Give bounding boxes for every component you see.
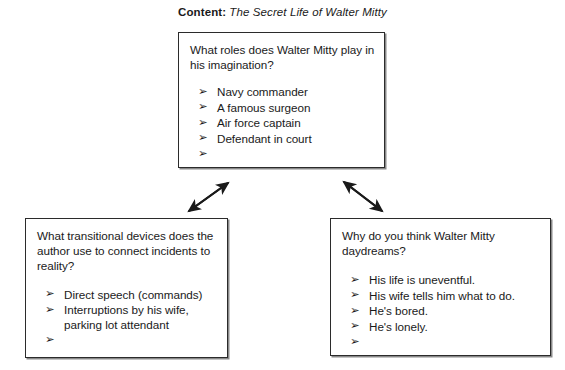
list-item-label: Direct speech (commands) bbox=[64, 288, 202, 301]
content-label: Content: bbox=[178, 6, 226, 18]
list-item: ➢ Direct speech (commands) bbox=[45, 287, 218, 302]
content-title: The Secret Life of Walter Mitty bbox=[229, 6, 387, 18]
answer-list-bottom-right: ➢ His life is uneventful. ➢ His wife tel… bbox=[342, 272, 541, 349]
list-item: ➢ Navy commander bbox=[198, 84, 375, 99]
question-text-top: What roles does Walter Mitty play in his… bbox=[190, 42, 375, 72]
list-item-blank[interactable]: ➢ bbox=[350, 334, 541, 349]
list-item-label: Interruptions by his wife, bbox=[64, 303, 189, 316]
arrowhead-bullet-icon: ➢ bbox=[198, 84, 208, 99]
arrowhead-bullet-icon: ➢ bbox=[198, 115, 208, 130]
connector-arrow-right bbox=[336, 172, 396, 220]
list-item-label: His wife tells him what to do. bbox=[369, 289, 515, 302]
arrowhead-bullet-icon: ➢ bbox=[350, 272, 360, 287]
arrowhead-bullet-icon: ➢ bbox=[45, 286, 55, 301]
arrowhead-bullet-icon: ➢ bbox=[350, 287, 360, 302]
list-item-continuation: parking lot attendant bbox=[64, 317, 218, 332]
list-item-label: He's bored. bbox=[369, 304, 428, 317]
page-title: Content: The Secret Life of Walter Mitty bbox=[0, 5, 565, 19]
question-box-bottom-right: Why do you think Walter Mitty daydreams?… bbox=[330, 218, 551, 356]
list-item-label: He's lonely. bbox=[369, 320, 428, 333]
arrow-shaft bbox=[189, 183, 228, 211]
list-item: ➢ Defendant in court bbox=[198, 131, 375, 146]
list-item-blank[interactable]: ➢ bbox=[198, 146, 375, 161]
question-box-bottom-right-inner: Why do you think Walter Mitty daydreams?… bbox=[331, 219, 550, 349]
question-box-bottom-left: What transitional devices does the autho… bbox=[25, 218, 228, 358]
arrow-shaft bbox=[344, 182, 382, 211]
question-box-bottom-left-inner: What transitional devices does the autho… bbox=[26, 219, 227, 348]
list-item: ➢ Interruptions by his wife, parking lot… bbox=[45, 302, 218, 333]
arrowhead-bullet-icon: ➢ bbox=[45, 302, 55, 317]
arrowhead-bullet-icon: ➢ bbox=[350, 318, 360, 333]
question-text-bottom-right: Why do you think Walter Mitty daydreams? bbox=[342, 228, 541, 258]
list-item: ➢ He's bored. bbox=[350, 303, 541, 318]
list-item-label: Defendant in court bbox=[217, 132, 312, 145]
arrowhead-bullet-icon: ➢ bbox=[45, 332, 55, 347]
arrowhead-bullet-icon: ➢ bbox=[198, 146, 208, 161]
graphic-organizer-page: Content: The Secret Life of Walter Mitty… bbox=[0, 0, 565, 370]
list-item-label: A famous surgeon bbox=[217, 101, 310, 114]
list-item: ➢ He's lonely. bbox=[350, 319, 541, 334]
list-item-blank[interactable]: ➢ bbox=[45, 333, 218, 348]
question-text-bottom-left: What transitional devices does the autho… bbox=[37, 228, 218, 274]
list-item: ➢ His wife tells him what to do. bbox=[350, 288, 541, 303]
arrowhead-bullet-icon: ➢ bbox=[350, 303, 360, 318]
list-item-label: Air force captain bbox=[217, 116, 301, 129]
list-item-label: Navy commander bbox=[217, 85, 308, 98]
list-item: ➢ Air force captain bbox=[198, 115, 375, 130]
question-box-top-inner: What roles does Walter Mitty play in his… bbox=[179, 33, 384, 161]
answer-list-bottom-left: ➢ Direct speech (commands) ➢ Interruptio… bbox=[37, 287, 218, 349]
arrowhead-bullet-icon: ➢ bbox=[198, 99, 208, 114]
list-item: ➢ A famous surgeon bbox=[198, 100, 375, 115]
question-box-top: What roles does Walter Mitty play in his… bbox=[178, 32, 385, 168]
arrowhead-bullet-icon: ➢ bbox=[198, 130, 208, 145]
list-item: ➢ His life is uneventful. bbox=[350, 272, 541, 287]
list-item-label: His life is uneventful. bbox=[369, 273, 475, 286]
answer-list-top: ➢ Navy commander ➢ A famous surgeon ➢ Ai… bbox=[190, 84, 375, 161]
connector-arrow-left bbox=[180, 172, 240, 220]
arrowhead-bullet-icon: ➢ bbox=[350, 334, 360, 349]
